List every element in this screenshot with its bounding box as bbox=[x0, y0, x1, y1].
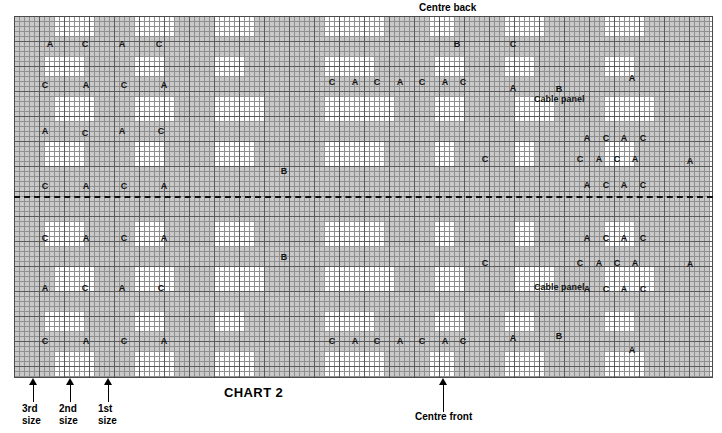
chart-symbol-c: C bbox=[603, 234, 610, 243]
shaded-block bbox=[164, 141, 214, 166]
chart-symbol-a: A bbox=[119, 127, 126, 136]
chart-grid: ACACBCCACACACACACABAACACACACBCCACAACACAA… bbox=[14, 16, 713, 378]
shaded-block bbox=[14, 76, 709, 96]
chart-symbol-a: A bbox=[584, 285, 591, 294]
shaded-block bbox=[14, 331, 709, 351]
chart-symbol-a: A bbox=[83, 81, 90, 90]
shaded-block bbox=[94, 351, 134, 376]
chart-symbol-c: C bbox=[42, 234, 49, 243]
chart-symbol-a: A bbox=[119, 284, 126, 293]
shaded-block bbox=[84, 56, 134, 76]
chart-symbol-a: A bbox=[621, 181, 628, 190]
chart-symbol-a: A bbox=[632, 155, 639, 164]
chart-symbol-a: A bbox=[161, 234, 168, 243]
shaded-block bbox=[384, 141, 434, 166]
chart-symbol-c: C bbox=[640, 181, 647, 190]
shaded-block bbox=[654, 266, 709, 291]
shaded-block bbox=[14, 56, 44, 76]
shaded-block bbox=[374, 56, 434, 76]
shaded-block bbox=[634, 311, 709, 331]
chart-symbol-a: A bbox=[510, 84, 517, 93]
shaded-block bbox=[634, 56, 709, 76]
shaded-block bbox=[14, 141, 44, 166]
centre-back-label: Centre back bbox=[419, 2, 476, 14]
shaded-block bbox=[174, 351, 214, 376]
size-marker-arrow-2nd bbox=[66, 378, 75, 402]
size-marker-arrow-3rd bbox=[29, 378, 38, 402]
chart-symbol-c: C bbox=[121, 234, 128, 243]
shaded-block bbox=[534, 311, 604, 331]
chart-symbol-c: C bbox=[640, 134, 647, 143]
shaded-block bbox=[14, 311, 44, 331]
shaded-block bbox=[14, 291, 709, 311]
chart-symbol-a: A bbox=[510, 334, 517, 343]
chart-symbol-a: A bbox=[442, 337, 449, 346]
chart-symbol-a: A bbox=[584, 134, 591, 143]
page-title: CHART 2 bbox=[224, 385, 283, 400]
shaded-block bbox=[534, 221, 604, 246]
chart-symbol-c: C bbox=[603, 285, 610, 294]
shaded-block bbox=[84, 311, 134, 331]
shaded-block bbox=[14, 246, 709, 266]
chart-symbol-a: A bbox=[161, 337, 168, 346]
chart-symbol-c: C bbox=[82, 40, 89, 49]
chart-symbol-a: A bbox=[83, 337, 90, 346]
shaded-block bbox=[374, 311, 434, 331]
chart-symbol-c: C bbox=[121, 337, 128, 346]
chart-symbol-a: A bbox=[584, 234, 591, 243]
chart-symbol-c: C bbox=[482, 259, 489, 268]
chart-symbol-b: B bbox=[556, 332, 563, 341]
shaded-block bbox=[94, 266, 134, 291]
shaded-block bbox=[164, 221, 214, 246]
chart-symbol-a: A bbox=[119, 40, 126, 49]
shaded-block bbox=[264, 266, 324, 291]
chart-symbol-c: C bbox=[82, 284, 89, 293]
chart-symbol-b: B bbox=[281, 167, 288, 176]
chart-symbol-c: C bbox=[42, 182, 49, 191]
chart-symbol-a: A bbox=[632, 259, 639, 268]
shaded-block bbox=[174, 96, 214, 121]
shaded-block bbox=[464, 56, 504, 76]
shaded-block bbox=[454, 351, 504, 376]
chart-symbol-a: A bbox=[161, 182, 168, 191]
chart-symbol-c: C bbox=[614, 259, 621, 268]
chart-symbol-c: C bbox=[419, 337, 426, 346]
shaded-block bbox=[384, 16, 429, 36]
shaded-block bbox=[14, 196, 709, 221]
chart-symbol-c: C bbox=[121, 182, 128, 191]
chart-symbol-c: C bbox=[156, 40, 163, 49]
chart-symbol-a: A bbox=[47, 40, 54, 49]
chart-symbol-a: A bbox=[83, 182, 90, 191]
shaded-block bbox=[174, 266, 214, 291]
chart-symbol-a: A bbox=[596, 259, 603, 268]
chart-symbol-c: C bbox=[42, 81, 49, 90]
chart-symbol-a: A bbox=[584, 181, 591, 190]
shaded-block bbox=[384, 351, 429, 376]
shaded-block bbox=[634, 141, 709, 166]
shaded-block bbox=[244, 56, 324, 76]
shaded-block bbox=[464, 311, 504, 331]
chart-symbol-a: A bbox=[687, 157, 694, 166]
chart-symbol-b: B bbox=[556, 85, 563, 94]
shaded-block bbox=[14, 16, 54, 36]
shaded-block bbox=[464, 96, 514, 121]
shaded-block bbox=[534, 141, 604, 166]
shaded-block bbox=[14, 351, 54, 376]
chart-symbol-c: C bbox=[460, 337, 467, 346]
chart-symbol-a: A bbox=[621, 285, 628, 294]
chart-symbol-a: A bbox=[629, 74, 636, 83]
shaded-block bbox=[394, 266, 434, 291]
chart-symbol-c: C bbox=[158, 127, 165, 136]
shaded-block bbox=[164, 56, 214, 76]
chart-symbol-a: A bbox=[161, 81, 168, 90]
shaded-block bbox=[254, 16, 324, 36]
chart-symbol-c: C bbox=[121, 81, 128, 90]
size-marker-label-2nd: 2nd size bbox=[59, 403, 78, 427]
shaded-block bbox=[94, 96, 134, 121]
chart-symbol-c: C bbox=[603, 181, 610, 190]
shaded-block bbox=[534, 56, 604, 76]
shaded-block bbox=[644, 351, 709, 376]
chart-symbol-c: C bbox=[82, 129, 89, 138]
chart-symbol-a: A bbox=[596, 155, 603, 164]
shaded-block bbox=[454, 16, 504, 36]
